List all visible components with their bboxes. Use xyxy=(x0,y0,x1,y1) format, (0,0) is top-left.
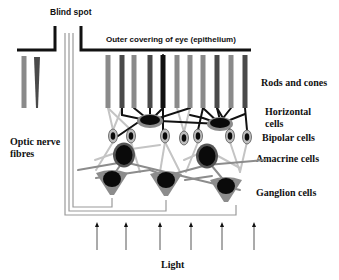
cone-cell xyxy=(120,55,125,108)
rod-cell xyxy=(22,56,27,108)
rod-cell xyxy=(201,55,206,108)
arrow-head-icon xyxy=(220,222,224,227)
rod-cell xyxy=(106,55,111,108)
epithelium-label: Outer covering of eye (epithelium) xyxy=(106,35,236,44)
cone-cell xyxy=(161,55,166,108)
rod-cell xyxy=(132,55,137,108)
nucleus xyxy=(182,134,187,142)
left-photoreceptors xyxy=(22,56,41,108)
cone-cell xyxy=(148,55,153,108)
nucleus xyxy=(163,132,168,140)
nucleus xyxy=(111,132,116,140)
rod-cell xyxy=(229,55,234,108)
bipolar-cells xyxy=(109,129,252,145)
ganglion-cells-label: Ganglion cells xyxy=(256,187,316,198)
nucleus xyxy=(245,133,250,141)
rod-cell xyxy=(188,55,193,108)
nucleus xyxy=(210,118,230,128)
arrow-head-icon xyxy=(95,222,99,227)
cone-cell xyxy=(34,57,40,108)
light-label: Light xyxy=(161,259,185,270)
nucleus xyxy=(157,172,175,188)
retina-diagram: Blind spot Outer covering of eye (epithe… xyxy=(0,0,339,280)
rods-cones-label: Rods and cones xyxy=(261,77,327,88)
nucleus xyxy=(103,171,121,187)
arrow-head-icon xyxy=(158,222,162,227)
arrow-head-icon xyxy=(124,222,128,227)
amacrine-cells xyxy=(113,143,218,169)
horizontal-cells-label-2: cells xyxy=(265,118,283,129)
nucleus xyxy=(217,178,235,194)
nucleus xyxy=(129,132,134,140)
left-epithelium xyxy=(17,26,55,50)
cone-cell xyxy=(243,55,248,108)
horizontal-cells-label-1: Horizontal xyxy=(265,106,311,117)
nucleus xyxy=(196,132,201,140)
optic-nerve-label-1: Optic nerve xyxy=(10,136,61,147)
amacrine-cells-label: Amacrine cells xyxy=(256,153,319,164)
nucleus xyxy=(140,115,160,125)
nucleus xyxy=(116,145,133,165)
blind-spot-label: Blind spot xyxy=(50,7,92,17)
bipolar-cells-label: Bipolar cells xyxy=(262,132,315,143)
light-arrows xyxy=(95,222,256,250)
arrow-head-icon xyxy=(252,222,256,227)
nucleus xyxy=(228,132,233,140)
arrow-head-icon xyxy=(189,222,193,227)
optic-nerve-label-2: fibres xyxy=(10,148,34,159)
cone-cell xyxy=(215,55,220,108)
rod-cell xyxy=(175,55,180,108)
rods-and-cones xyxy=(106,55,248,108)
nucleus xyxy=(199,146,216,166)
